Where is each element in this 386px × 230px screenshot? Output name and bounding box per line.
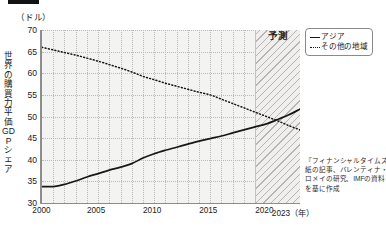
x-axis-tick: 2023（年） (272, 206, 314, 218)
forecast-label: 予測 (268, 28, 288, 42)
series-line-asia (42, 109, 300, 187)
chart-plot-area: 予測 (40, 30, 300, 204)
x-axis-tick: 2020 (255, 206, 273, 215)
legend-item-asia: アジア (310, 32, 370, 42)
y-axis-tick: 40 (1, 155, 37, 165)
y-axis-tick: 65 (1, 47, 37, 57)
y-axis-tick: 35 (1, 176, 37, 186)
y-axis-tick: 55 (1, 90, 37, 100)
x-axis-tick: 2000 (32, 206, 50, 215)
x-axis-tick: 2010 (143, 206, 161, 215)
y-axis-tick: 60 (1, 68, 37, 78)
source-note: 『フィナンシャルタイムズ』 紙の記事、バレンティナ・ ロメイの研究、IMFの資料… (305, 156, 383, 193)
x-axis-tick: 2015 (199, 206, 217, 215)
x-axis-tick: 2005 (87, 206, 105, 215)
source-note-line-2: 紙の記事、バレンティナ・ (305, 165, 383, 174)
source-note-line-1: 『フィナンシャルタイムズ』 (305, 156, 383, 165)
y-axis-tick-labels: 303540455055606570 (0, 0, 37, 230)
chart-plot-inner (42, 30, 300, 203)
chart-series-layer (42, 30, 300, 203)
legend-item-other-regions: その他の地域 (310, 42, 370, 52)
y-axis-tick: 50 (1, 112, 37, 122)
y-axis-tick: 45 (1, 133, 37, 143)
source-note-line-3: ロメイの研究、IMFの資料 (305, 174, 383, 183)
legend-label-asia: アジア (321, 32, 344, 42)
series-line-other-regions (42, 47, 300, 130)
legend-label-other-regions: その他の地域 (321, 42, 368, 52)
y-axis-tick: 70 (1, 25, 37, 35)
legend-line-solid-icon (310, 33, 320, 41)
source-note-line-4: を基に作成 (305, 184, 383, 193)
chart-legend: アジア その他の地域 (305, 28, 373, 56)
legend-line-dotted-icon (310, 43, 320, 51)
